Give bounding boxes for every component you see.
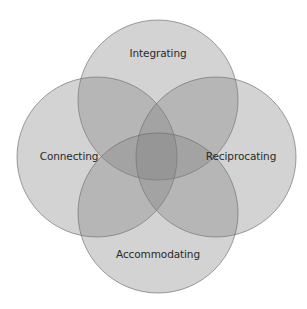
label-integrating: Integrating [130, 47, 187, 59]
label-connecting: Connecting [40, 150, 99, 162]
label-reciprocating: Reciprocating [206, 150, 276, 162]
venn-diagram: Integrating Connecting Reciprocating Acc… [0, 0, 307, 309]
label-accommodating: Accommodating [116, 248, 200, 260]
venn-svg: Integrating Connecting Reciprocating Acc… [0, 0, 307, 309]
